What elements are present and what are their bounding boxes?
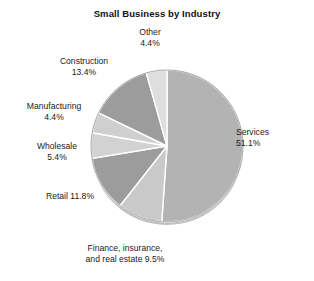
slice-label-construction-name: Construction xyxy=(38,56,130,67)
slice-label-wholesale-value: 5.4% xyxy=(12,152,102,163)
slice-label-finance: Finance, insurance, and real estate 9.5% xyxy=(58,243,192,265)
pie-slice xyxy=(162,70,243,222)
slice-label-finance-line1: Finance, insurance, xyxy=(58,243,192,254)
slice-label-services: Services 51.1% xyxy=(236,127,310,149)
slice-label-wholesale: Wholesale 5.4% xyxy=(12,141,102,163)
slice-label-wholesale-name: Wholesale xyxy=(12,141,102,152)
slice-label-other: Other 4.4% xyxy=(112,27,188,49)
slice-label-finance-line2: and real estate 9.5% xyxy=(58,254,192,265)
slice-label-manufacturing-value: 4.4% xyxy=(6,112,102,123)
pie-chart-figure: Small Business by Industry Other 4.4% Co… xyxy=(0,0,314,281)
slice-label-retail: Retail 11.8% xyxy=(24,191,116,202)
slice-label-services-value: 51.1% xyxy=(236,138,310,149)
slice-label-other-value: 4.4% xyxy=(112,38,188,49)
slice-label-manufacturing-name: Manufacturing xyxy=(6,101,102,112)
slice-label-services-name: Services xyxy=(236,127,310,138)
slice-label-other-name: Other xyxy=(112,27,188,38)
slice-label-retail-text: Retail 11.8% xyxy=(24,191,116,202)
slice-label-manufacturing: Manufacturing 4.4% xyxy=(6,101,102,123)
slice-label-construction-value: 13.4% xyxy=(38,67,130,78)
slice-label-construction: Construction 13.4% xyxy=(38,56,130,78)
